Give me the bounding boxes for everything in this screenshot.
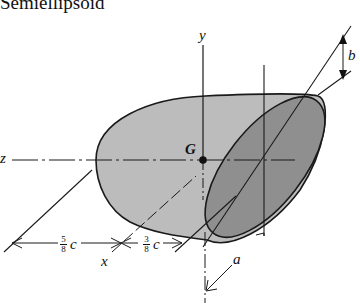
b-dimension-label: b	[348, 48, 356, 63]
centroid-label: G	[185, 142, 196, 157]
five-eighths-fraction: 58	[59, 235, 68, 254]
five-eighths-c-label: c	[70, 237, 77, 252]
semiellipsoid-diagram	[0, 0, 360, 303]
a-dimension-label: a	[233, 252, 241, 267]
z-axis-label: z	[0, 151, 6, 166]
x-axis-label: x	[101, 254, 108, 269]
three-eighths-fraction: 38	[142, 235, 151, 254]
y-axis-label: y	[199, 28, 206, 43]
centroid-point	[199, 156, 207, 164]
three-eighths-c-label: c	[153, 237, 160, 252]
